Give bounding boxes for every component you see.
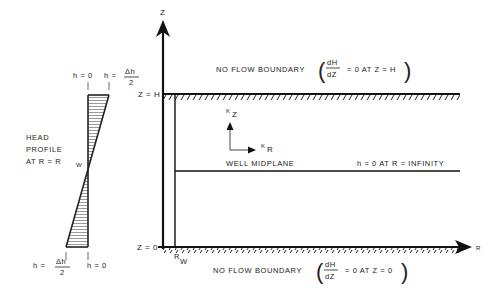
conductivity-arrows bbox=[227, 122, 257, 154]
kr-label: K bbox=[261, 143, 265, 149]
kz-label: K bbox=[226, 108, 230, 114]
top-deriv-num: dH bbox=[327, 58, 338, 67]
head-top-right-den: 2 bbox=[129, 78, 134, 87]
kr-arrow-icon bbox=[248, 147, 256, 154]
z-axis-label: Z bbox=[160, 8, 165, 17]
bottom-boundary-label: NO FLOW BOUNDARY bbox=[213, 266, 302, 275]
kr-sub: R bbox=[267, 145, 273, 154]
head-profile-title-1: HEAD bbox=[26, 133, 49, 142]
head-profile-title-sub: W bbox=[76, 162, 82, 168]
bottom-deriv-den: dZ bbox=[325, 272, 335, 281]
head-profile-title-2: PROFILE bbox=[26, 145, 62, 154]
head-top-right-num: Δh bbox=[125, 67, 135, 76]
well-midplane-label: WELL MIDPLANE bbox=[226, 159, 294, 168]
close-paren: ) bbox=[404, 58, 411, 83]
bottom-boundary-hatch bbox=[163, 248, 463, 253]
top-deriv-den: dZ bbox=[327, 70, 337, 79]
head-profile bbox=[66, 82, 109, 260]
bottom-boundary-condition: = 0 AT Z = 0 bbox=[345, 266, 393, 275]
head-bottom-left-num: Δh bbox=[56, 257, 66, 266]
open-paren: ( bbox=[316, 259, 324, 284]
head-bottom-left-den: 2 bbox=[60, 268, 65, 277]
head-top-right-prefix: h = bbox=[104, 71, 116, 80]
far-field-condition: h = 0 AT R = INFINITY bbox=[357, 159, 444, 168]
z-equals-h-label: Z = H bbox=[138, 90, 160, 99]
well-radius-sub: W bbox=[180, 257, 188, 266]
head-top-left-label: h = 0 bbox=[73, 71, 93, 80]
top-boundary-hatch bbox=[163, 95, 460, 100]
bottom-deriv-num: dH bbox=[325, 260, 336, 269]
r-axis-label: R bbox=[476, 245, 481, 251]
close-paren: ) bbox=[401, 259, 408, 284]
open-paren: ( bbox=[318, 58, 326, 83]
top-boundary-condition: = 0 AT Z = H bbox=[347, 65, 396, 74]
head-profile-title-3: AT R = R bbox=[26, 157, 61, 166]
head-bottom-left-prefix: h = bbox=[33, 261, 45, 270]
kz-arrow-icon bbox=[227, 122, 234, 130]
kz-sub: Z bbox=[232, 110, 237, 119]
z-equals-0-label: Z = 0 bbox=[137, 243, 158, 252]
top-boundary-label: NO FLOW BOUNDARY bbox=[216, 65, 305, 74]
head-bottom-right-label: h = 0 bbox=[87, 261, 107, 270]
